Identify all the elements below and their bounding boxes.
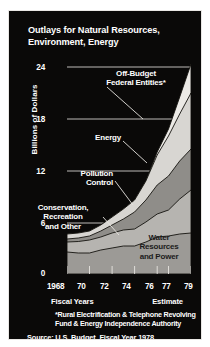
- callout-conservation-recreation-and-other: Conservation, Recreation and Other: [25, 203, 101, 231]
- source-line: Source: U.S. Budget, Fiscal Year 1978: [27, 333, 154, 340]
- x-axis-tick-row: 1968 70 72 74 76 77 79: [49, 282, 201, 293]
- callout-energy: Energy: [73, 133, 121, 142]
- x-tick-1977: 77: [162, 282, 171, 291]
- footnote: *Rural Electrification & Telephone Revol…: [55, 311, 202, 328]
- page-title: Outlays for Natural Resources, Environme…: [28, 25, 193, 48]
- chart-card: Outlays for Natural Resources, Environme…: [8, 10, 202, 340]
- y-tick-0: 0: [23, 269, 45, 278]
- fiscal-years-label: Fiscal Years: [51, 297, 94, 306]
- x-tick-1979: 79: [184, 282, 193, 291]
- x-tick-1970: 70: [77, 282, 86, 291]
- x-tick-1968: 1968: [47, 282, 64, 291]
- x-tick-1976: 76: [145, 282, 154, 291]
- callout-off-budget-federal-entities: Off-Budget Federal Entities*: [93, 69, 179, 88]
- label-water-resources-and-power: Water Resources and Power: [127, 233, 191, 261]
- y-axis-label: Billions of Dollars: [30, 65, 39, 175]
- x-tick-1972: 72: [100, 282, 109, 291]
- callout-pollution-control: Pollution Control: [61, 169, 113, 188]
- chart-page: Outlays for Natural Resources, Environme…: [0, 0, 210, 347]
- estimate-label: Estimate: [152, 297, 183, 306]
- x-tick-1974: 74: [122, 282, 131, 291]
